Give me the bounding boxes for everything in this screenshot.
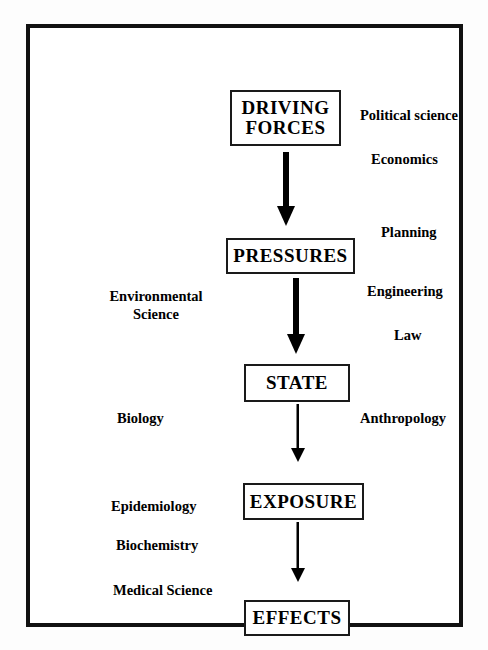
- discipline-label-environmental-science: Environmental Science: [91, 287, 221, 323]
- node-driving-forces-line2: FORCES: [245, 117, 325, 138]
- arrow-pressures-to-state: [276, 278, 316, 358]
- discipline-label-environmental-science-line2: Science: [133, 306, 179, 322]
- node-pressures-label: PRESSURES: [233, 246, 347, 266]
- node-state-label: STATE: [266, 373, 328, 393]
- node-state: STATE: [244, 364, 350, 402]
- arrow-state-to-exposure: [278, 404, 318, 466]
- node-driving-forces-line1: DRIVING: [242, 97, 330, 118]
- node-pressures: PRESSURES: [226, 238, 355, 274]
- discipline-label-anthropology: Anthropology: [360, 409, 446, 427]
- diagram-canvas: DRIVING FORCES PRESSURES STATE EXPOSURE …: [0, 0, 488, 650]
- arrow-exposure-to-effects: [278, 522, 318, 586]
- node-exposure: EXPOSURE: [243, 483, 364, 520]
- discipline-label-epidemiology: Epidemiology: [111, 497, 196, 515]
- node-effects: EFFECTS: [244, 600, 350, 636]
- node-effects-label: EFFECTS: [252, 608, 341, 628]
- discipline-label-political-science: Political science: [360, 106, 458, 124]
- discipline-label-engineering: Engineering: [367, 282, 443, 300]
- node-driving-forces-label: DRIVING FORCES: [242, 98, 330, 138]
- node-driving-forces: DRIVING FORCES: [230, 90, 341, 146]
- discipline-label-environmental-science-line1: Environmental: [109, 288, 202, 304]
- discipline-label-law: Law: [394, 326, 421, 344]
- discipline-label-economics: Economics: [371, 150, 438, 168]
- diagram-frame-border: DRIVING FORCES PRESSURES STATE EXPOSURE …: [26, 24, 463, 627]
- discipline-label-biology: Biology: [117, 409, 164, 427]
- discipline-label-medical-science: Medical Science: [113, 581, 212, 599]
- node-exposure-label: EXPOSURE: [250, 492, 357, 512]
- discipline-label-planning: Planning: [381, 223, 437, 241]
- discipline-label-biochemistry: Biochemistry: [116, 536, 198, 554]
- arrow-driving-forces-to-pressures: [266, 152, 306, 230]
